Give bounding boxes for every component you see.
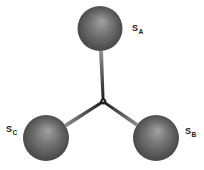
bond-bottom-right <box>102 100 138 126</box>
molecular-model-figure: SA SB SC <box>0 0 204 170</box>
central-atom-highlight-dot <box>102 100 104 102</box>
ball-and-stick-diagram <box>0 0 204 170</box>
bond-top <box>99 51 105 102</box>
label-atom-b: SB <box>185 127 196 136</box>
label-atom-b-base: S <box>185 126 191 136</box>
label-atom-a-base: S <box>132 23 138 33</box>
label-atom-a: SA <box>132 24 143 33</box>
label-atom-c-base: S <box>6 124 12 134</box>
label-atom-c-subscript: C <box>13 128 18 137</box>
label-atom-b-subscript: B <box>192 130 197 139</box>
bond-bottom-left <box>64 100 104 127</box>
label-atom-c: SC <box>6 125 17 134</box>
label-atom-a-subscript: A <box>139 27 144 36</box>
sphere-atom-b <box>133 115 179 161</box>
sphere-atom-c <box>23 115 69 161</box>
sphere-atom-a <box>78 6 123 51</box>
